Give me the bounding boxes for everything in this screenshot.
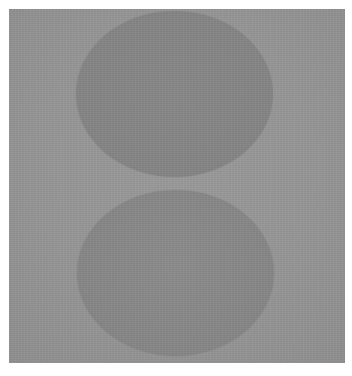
bottom-circle bbox=[77, 190, 274, 356]
top-circle bbox=[76, 11, 273, 177]
painting-canvas bbox=[9, 9, 345, 363]
